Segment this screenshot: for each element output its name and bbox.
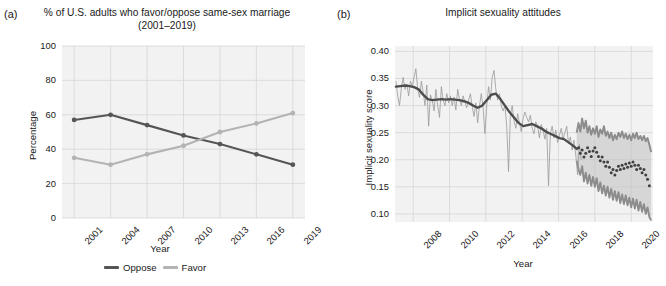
- panel-b-y-tick: 0.10: [351, 208, 389, 219]
- figure-container: (a) % of U.S. adults who favor/oppose sa…: [0, 0, 666, 286]
- panel-a-y-tick: 0: [18, 212, 56, 223]
- panel-b: (b) Implicit sexuality attitudes Implici…: [333, 0, 666, 286]
- legend-swatch-oppose: [104, 266, 119, 269]
- panel-a-y-tick: 20: [18, 178, 56, 189]
- panel-b-y-tick: 0.35: [351, 72, 389, 83]
- panel-b-y-tick: 0.30: [351, 100, 389, 111]
- panel-a-legend: Oppose Favor: [104, 262, 206, 273]
- panel-a: (a) % of U.S. adults who favor/oppose sa…: [0, 0, 333, 286]
- panel-a-y-tick: 40: [18, 143, 56, 154]
- legend-swatch-favor: [163, 266, 178, 269]
- panel-b-y-tick: 0.15: [351, 181, 389, 192]
- panel-a-y-tick: 100: [18, 40, 56, 51]
- panel-b-y-tick: 0.40: [351, 45, 389, 56]
- panel-b-y-tick: 0.25: [351, 127, 389, 138]
- legend-item-favor[interactable]: Favor: [163, 262, 207, 273]
- legend-item-oppose[interactable]: Oppose: [104, 262, 157, 273]
- panel-a-y-tick: 80: [18, 74, 56, 85]
- panel-b-y-tick: 0.20: [351, 154, 389, 165]
- legend-label-favor: Favor: [182, 262, 207, 273]
- legend-label-oppose: Oppose: [123, 262, 157, 273]
- panel-a-y-tick: 60: [18, 109, 56, 120]
